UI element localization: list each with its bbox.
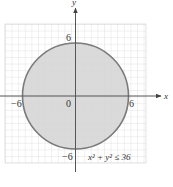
inequality-label: x² + y² ≤ 36 [87, 152, 131, 162]
tick-x-pos6: 6 [129, 98, 134, 109]
tick-x-neg6: −6 [11, 98, 22, 109]
y-axis-label: y [71, 0, 76, 7]
tick-y-pos6: 6 [66, 32, 71, 43]
tick-y-neg6: −6 [62, 151, 73, 162]
tick-origin: 0 [66, 98, 71, 109]
x-axis-label: x [163, 91, 168, 101]
inequality-graph: x y −6 0 6 6 −6 x² + y² ≤ 36 [0, 0, 173, 187]
